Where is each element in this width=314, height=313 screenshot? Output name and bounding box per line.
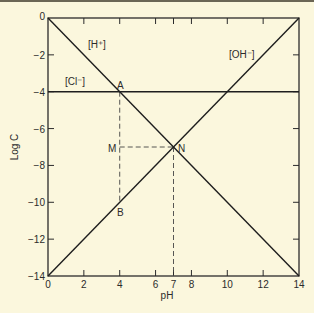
y-axis-title: Log C (9, 134, 20, 161)
y-tick-label: −4 (34, 87, 46, 98)
point-label-a: A (117, 80, 124, 91)
x-axis-title: pH (161, 290, 174, 301)
point-label-n: N (178, 143, 185, 154)
y-tick-label: −14 (28, 271, 45, 282)
label-h-plus: [H⁺] (88, 39, 106, 50)
y-tick-label: −2 (34, 50, 46, 61)
label-oh-minus: [OH⁻] (229, 49, 255, 60)
y-tick-labels: 0−2−4−6−8−10−12−14 (28, 11, 45, 282)
y-tick-label: −6 (34, 124, 46, 135)
point-label-m: M (108, 143, 116, 154)
x-tick-label: 4 (117, 279, 123, 290)
x-tick-label: 14 (293, 279, 305, 290)
y-tick-label: −12 (28, 234, 45, 245)
x-tick-label: 8 (189, 279, 195, 290)
x-tick-labels: 024678101214 (45, 279, 305, 290)
x-tick-label: 2 (81, 279, 87, 290)
x-tick-label: 6 (153, 279, 159, 290)
x-tick-label: 0 (45, 279, 51, 290)
y-tick-label: 0 (39, 11, 45, 22)
x-tick-label: 7 (171, 279, 177, 290)
label-cl-minus: [Cl⁻] (65, 76, 85, 87)
x-tick-label: 10 (222, 279, 234, 290)
y-tick-label: −8 (34, 160, 46, 171)
x-tick-label: 12 (258, 279, 270, 290)
chart: 024678101214 0−2−4−6−8−10−12−14 [H⁺] [OH… (0, 0, 314, 313)
point-label-b: B (117, 207, 124, 218)
y-tick-label: −10 (28, 197, 45, 208)
